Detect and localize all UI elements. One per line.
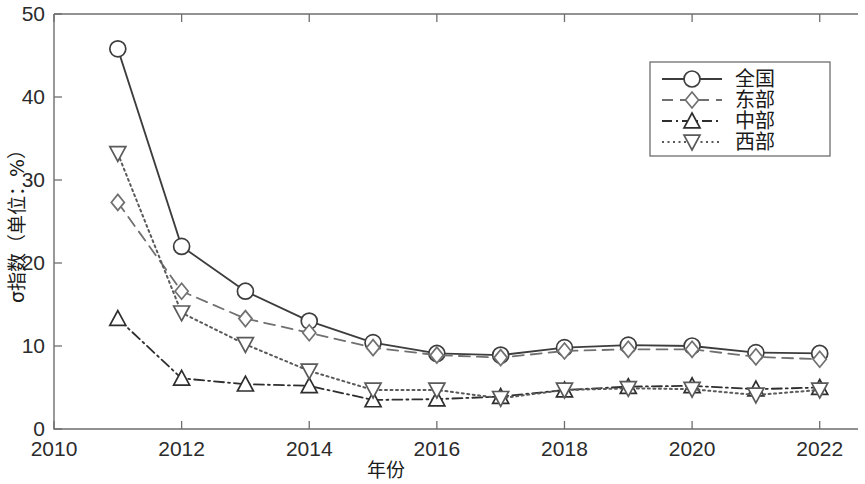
y-tick-label: 10 bbox=[22, 334, 45, 357]
y-axis-title: σ指数（单位：%） bbox=[6, 140, 28, 303]
x-tick-label: 2018 bbox=[541, 437, 588, 460]
chart-legend: 全国东部中部西部 bbox=[650, 62, 830, 156]
data-point-circle bbox=[684, 71, 700, 87]
y-tick-label: 50 bbox=[22, 2, 45, 25]
data-point-diamond bbox=[175, 283, 188, 299]
series-line-东部 bbox=[118, 202, 820, 359]
x-tick-label: 2020 bbox=[669, 437, 716, 460]
x-tick-label: 2014 bbox=[286, 437, 333, 460]
line-chart: 010203040502010201220142016201820202022年… bbox=[0, 0, 865, 484]
series-西部 bbox=[110, 147, 828, 407]
data-point-triangle-down bbox=[174, 306, 190, 321]
x-tick-label: 2016 bbox=[413, 437, 460, 460]
chart-figure: 010203040502010201220142016201820202022年… bbox=[0, 0, 865, 484]
x-axis-title: 年份 bbox=[367, 459, 405, 481]
series-东部 bbox=[111, 194, 826, 367]
series-line-中部 bbox=[118, 319, 820, 400]
data-point-triangle-down bbox=[110, 147, 126, 162]
x-tick-label: 2010 bbox=[31, 437, 78, 460]
data-point-diamond bbox=[239, 311, 252, 327]
data-point-triangle-up bbox=[110, 311, 126, 326]
data-point-triangle-down bbox=[237, 338, 253, 353]
data-point-triangle-down bbox=[365, 383, 381, 398]
y-tick-label: 40 bbox=[22, 85, 45, 108]
x-tick-label: 2012 bbox=[158, 437, 205, 460]
data-point-circle bbox=[110, 41, 126, 57]
data-point-triangle-down bbox=[301, 364, 317, 379]
legend-label-西部: 西部 bbox=[735, 130, 775, 154]
data-point-circle bbox=[174, 238, 190, 254]
x-tick-label: 2022 bbox=[796, 437, 843, 460]
data-point-circle bbox=[237, 283, 253, 299]
